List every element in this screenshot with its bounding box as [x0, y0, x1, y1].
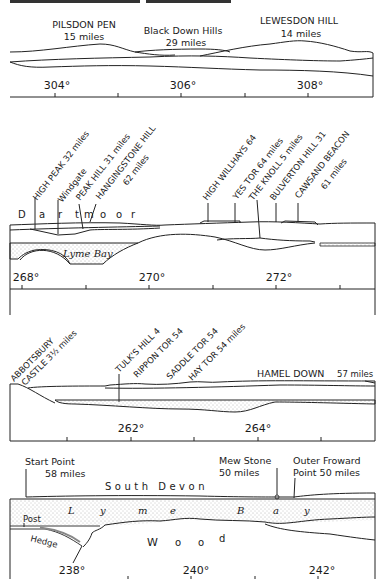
degree-304: 304°	[44, 79, 71, 92]
label-pilsdon-pen-distance: 15 miles	[64, 31, 104, 42]
panorama-diagram: PILSDON PEN 15 miles Black Down Hills 29…	[0, 0, 385, 579]
label-lewesdon-hill-distance: 14 miles	[281, 28, 321, 39]
dartmoor-skyline	[10, 222, 375, 226]
svg-text:o: o	[116, 209, 122, 220]
label-outer-froward: Outer Froward	[293, 455, 361, 466]
degree-306: 306°	[170, 79, 197, 92]
label-black-down-hills: Black Down Hills	[144, 25, 223, 36]
panel-3: ABBOTSBURY CASTLE 3½ miles TULK'S HILL 4…	[8, 321, 375, 441]
degree-262: 262°	[118, 422, 145, 435]
degree-240: 240°	[183, 564, 210, 577]
svg-text:D: D	[18, 209, 26, 220]
svg-text:e: e	[170, 505, 176, 516]
label-hamel-down: HAMEL DOWN	[257, 368, 324, 379]
label-black-down-hills-distance: 29 miles	[166, 37, 206, 48]
svg-text:y: y	[99, 505, 106, 516]
east-water	[320, 243, 375, 246]
ridge-lewesdon	[200, 41, 373, 56]
degree-264: 264°	[245, 422, 272, 435]
south-devon-skyline	[26, 493, 375, 497]
svg-text:L: L	[67, 505, 75, 516]
degree-238: 238°	[59, 564, 86, 577]
svg-text:r: r	[58, 209, 63, 220]
svg-text:t: t	[75, 209, 79, 220]
label-hamel-down-distance: 57 miles	[337, 369, 374, 379]
svg-text:a: a	[273, 505, 279, 516]
panel-2-ticks	[22, 285, 340, 289]
ridge-mid	[10, 56, 373, 62]
label-mew-stone-distance: 50 miles	[219, 467, 259, 478]
degree-308: 308°	[297, 79, 324, 92]
svg-text:W: W	[147, 536, 158, 549]
hills-base	[105, 385, 375, 388]
svg-text:o: o	[100, 209, 106, 220]
leader-238	[73, 546, 82, 563]
degree-268: 268°	[13, 271, 40, 284]
wood-west-edge	[83, 525, 105, 547]
ridge-front	[10, 62, 373, 76]
panel-4: Start Point 58 miles Mew Stone 50 miles …	[10, 455, 375, 579]
svg-text:m: m	[138, 505, 147, 516]
degree-270: 270°	[139, 271, 166, 284]
svg-text:o: o	[198, 537, 204, 548]
svg-text:o: o	[175, 537, 181, 548]
panel-3-water	[55, 400, 375, 412]
panel-3-ticks	[67, 437, 321, 441]
label-start-point-distance: 58 miles	[45, 468, 85, 479]
panel-2: HIGH PEAK 32 miles Windgate PEAK HILL 31…	[10, 123, 375, 315]
lyme-bay-label: Lyme Bay	[62, 248, 113, 259]
label-start-point: Start Point	[25, 456, 75, 467]
degree-272: 272°	[266, 271, 293, 284]
wood-lower-edge	[265, 524, 375, 540]
svg-text:m: m	[84, 209, 94, 220]
panel-4-water	[10, 499, 375, 525]
label-mew-stone: Mew Stone	[219, 455, 271, 466]
svg-text:B: B	[236, 505, 244, 516]
degree-242: 242°	[309, 564, 336, 577]
label-pilsdon-pen: PILSDON PEN	[52, 19, 116, 30]
panel-1-ticks	[55, 93, 308, 97]
panel-1: PILSDON PEN 15 miles Black Down Hills 29…	[10, 15, 373, 97]
label-south-devon: South Devon	[105, 481, 208, 492]
label-lewesdon-hill: LEWESDON HILL	[260, 15, 339, 26]
svg-text:y: y	[303, 505, 310, 516]
label-hedge: Hedge	[30, 533, 59, 549]
svg-text:a: a	[39, 209, 45, 220]
label-outer-froward-point: Point 50 miles	[293, 467, 360, 478]
leader-outer-froward	[294, 478, 295, 498]
svg-text:d: d	[219, 533, 225, 544]
lyme-bay-shore	[138, 234, 315, 250]
dartmoor-label: D a r t m o o r	[18, 209, 136, 220]
svg-text:r: r	[131, 209, 136, 220]
ridge-black-down	[135, 49, 230, 52]
ridge-pilsdon	[10, 44, 175, 55]
label-post: Post	[23, 514, 41, 524]
wood-spaced-label: W o o d	[147, 533, 225, 549]
